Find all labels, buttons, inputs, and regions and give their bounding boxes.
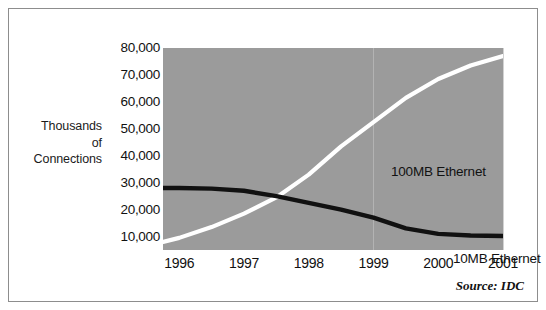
series-canvas bbox=[163, 48, 503, 250]
y-axis-tick-labels: 80,00070,00060,00050,00040,00030,00020,0… bbox=[100, 40, 160, 258]
x-axis-tick-labels: 199619971998199920002001 bbox=[130, 255, 530, 275]
y-axis-title-line-3: Connections bbox=[18, 151, 102, 168]
y-tick-label: 10,000 bbox=[100, 230, 160, 244]
x-tick-label: 1999 bbox=[358, 255, 388, 272]
y-tick-label: 50,000 bbox=[100, 122, 160, 136]
source-note: Source: IDC bbox=[456, 278, 524, 294]
x-tick-label: 2000 bbox=[423, 255, 453, 272]
series-label-100mb-ethernet: 100MB Ethernet bbox=[391, 164, 486, 179]
series-line-100mb-ethernet bbox=[163, 56, 503, 242]
x-tick-label: 1998 bbox=[294, 255, 324, 272]
chart-figure: Thousands of Connections 80,00070,00060,… bbox=[0, 0, 546, 310]
y-axis-title: Thousands of Connections bbox=[18, 118, 102, 168]
y-tick-label: 30,000 bbox=[100, 176, 160, 190]
y-axis-title-line-1: Thousands bbox=[18, 118, 102, 135]
y-tick-label: 80,000 bbox=[100, 41, 160, 55]
y-tick-label: 40,000 bbox=[100, 149, 160, 163]
x-tick-label: 2001 bbox=[488, 255, 518, 272]
y-tick-label: 70,000 bbox=[100, 68, 160, 82]
y-tick-label: 60,000 bbox=[100, 95, 160, 109]
x-tick-label: 1996 bbox=[164, 255, 194, 272]
series-line-10mb-ethernet bbox=[163, 188, 503, 236]
plot-area: 100MB Ethernet 10MB Ethernet bbox=[163, 48, 504, 250]
x-tick-label: 1997 bbox=[229, 255, 259, 272]
y-tick-label: 20,000 bbox=[100, 203, 160, 217]
y-axis-title-line-2: of bbox=[18, 135, 102, 152]
